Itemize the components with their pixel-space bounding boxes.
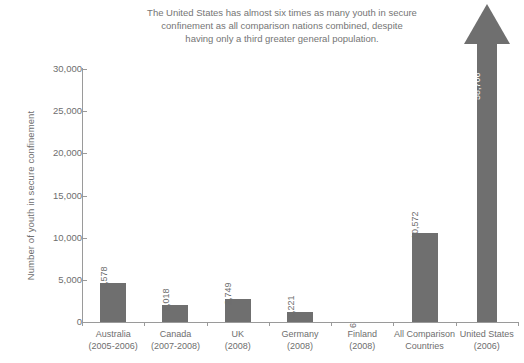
- y-axis-tick-label: 15,000: [36, 190, 82, 201]
- chart-title: The United States has almost six times a…: [122, 6, 442, 46]
- y-axis-tick: [82, 111, 87, 112]
- bar-value-label: 6: [348, 323, 358, 328]
- x-axis-tick: [207, 322, 208, 326]
- category-year: (2006): [450, 341, 524, 353]
- x-axis-category-label: United States(2006): [450, 329, 524, 352]
- bar-chart: The United States has almost six times a…: [0, 0, 524, 363]
- bar-value-label: 2,018: [161, 288, 171, 311]
- y-axis-tick-label: 10,000: [36, 232, 82, 243]
- bar-all: [412, 233, 438, 322]
- arrow-head-icon: [464, 4, 510, 44]
- x-axis-tick: [518, 322, 519, 326]
- x-axis-tick: [269, 322, 270, 326]
- y-axis-tick-label: 0: [36, 316, 82, 327]
- x-axis-tick: [456, 322, 457, 326]
- category-name: United States: [450, 329, 524, 341]
- y-axis-tick: [82, 69, 87, 70]
- x-axis-tick: [393, 322, 394, 326]
- y-axis-tick-label: 20,000: [36, 147, 82, 158]
- bar-value-label: 4,578: [99, 267, 109, 290]
- bar-value-label: 58,706: [472, 72, 482, 100]
- y-axis-tick: [82, 196, 87, 197]
- y-axis-tick-label: 25,000: [36, 105, 82, 116]
- bar-value-label: 1,221: [286, 295, 296, 318]
- x-axis-tick: [82, 322, 83, 326]
- y-axis-tick-label: 5,000: [36, 274, 82, 285]
- bar-value-label: 2,749: [223, 282, 233, 305]
- x-axis-line: [82, 322, 518, 323]
- x-axis-tick: [331, 322, 332, 326]
- y-axis-tick: [82, 153, 87, 154]
- bar-australia: [100, 283, 126, 322]
- y-axis-title: Number of youth in secure confinement: [25, 76, 36, 316]
- y-axis-tick: [82, 280, 87, 281]
- bar-value-label: 10,572: [410, 211, 420, 239]
- y-axis-tick: [82, 238, 87, 239]
- y-axis-tick-label: 30,000: [36, 63, 82, 74]
- x-axis-tick: [144, 322, 145, 326]
